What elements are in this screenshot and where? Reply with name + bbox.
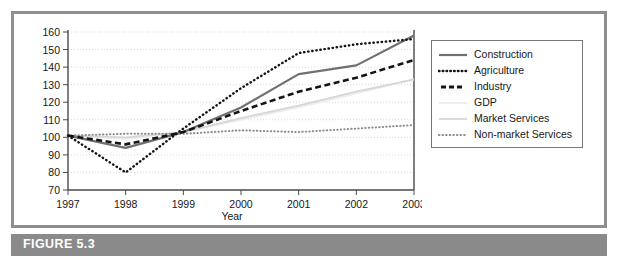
legend-swatch-construction <box>438 49 468 60</box>
y-tick-label: 100 <box>42 131 60 143</box>
x-tick-label: 1998 <box>114 198 138 210</box>
data-series-group <box>68 36 414 173</box>
legend-swatch-market-services <box>438 113 468 124</box>
legend-label-construction: Construction <box>474 49 533 60</box>
y-tick-label: 140 <box>42 61 60 73</box>
figure-caption-band: FIGURE 5.3 <box>11 234 607 256</box>
y-tick-label: 160 <box>42 26 60 38</box>
y-tick-label: 130 <box>42 79 60 91</box>
legend-label-gdp: GDP <box>474 97 497 108</box>
legend-swatch-gdp <box>438 97 468 108</box>
legend-item-agriculture[interactable]: Agriculture <box>432 62 582 78</box>
chart-legend: Construction Agriculture Industry GDP <box>431 40 583 148</box>
legend-label-industry: Industry <box>474 81 511 92</box>
x-tick-label: 1999 <box>172 198 196 210</box>
x-tick-label: 2001 <box>287 198 311 210</box>
x-tick-label: 2002 <box>345 198 369 210</box>
legend-item-market-services[interactable]: Market Services <box>432 110 582 126</box>
axis-lines-group <box>68 30 414 190</box>
y-tick-label: 120 <box>42 96 60 108</box>
y-tick-label: 70 <box>48 184 60 196</box>
x-axis-title: Year <box>221 210 243 222</box>
x-tick-label: 2003 <box>402 198 422 210</box>
legend-label-agriculture: Agriculture <box>474 65 524 76</box>
legend-item-non-market-services[interactable]: Non-market Services <box>432 126 582 142</box>
legend-label-non-market-services: Non-market Services <box>474 129 572 140</box>
figure-caption-text: FIGURE 5.3 <box>23 237 95 251</box>
figure-page: 708090100110120130140150160 199719981999… <box>0 0 628 271</box>
y-tick-label: 80 <box>48 166 60 178</box>
legend-item-industry[interactable]: Industry <box>432 78 582 94</box>
gridlines-group <box>68 32 414 172</box>
y-tick-marks-group <box>63 32 68 190</box>
y-tick-label: 90 <box>48 149 60 161</box>
series-line-non-market-services <box>68 125 414 136</box>
x-tick-label: 1997 <box>56 198 80 210</box>
x-tick-labels-group: 1997199819992000200120022003 <box>56 198 422 210</box>
y-tick-labels-group: 708090100110120130140150160 <box>42 26 60 196</box>
legend-item-gdp[interactable]: GDP <box>432 94 582 110</box>
y-tick-label: 150 <box>42 44 60 56</box>
legend-item-construction[interactable]: Construction <box>432 46 582 62</box>
series-line-agriculture <box>68 39 414 172</box>
legend-label-market-services: Market Services <box>474 113 549 124</box>
x-tick-marks-group <box>68 190 414 195</box>
figure-frame: 708090100110120130140150160 199719981999… <box>11 11 607 228</box>
x-tick-label: 2000 <box>229 198 253 210</box>
line-chart: 708090100110120130140150160 199719981999… <box>32 22 422 227</box>
legend-swatch-industry <box>438 81 468 92</box>
chart-svg: 708090100110120130140150160 199719981999… <box>32 22 422 227</box>
y-tick-label: 110 <box>43 114 60 126</box>
legend-swatch-agriculture <box>438 65 468 76</box>
legend-swatch-non-market-services <box>438 129 468 140</box>
